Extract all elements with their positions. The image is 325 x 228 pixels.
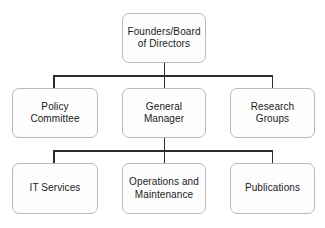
- connector-drop-operations: [164, 150, 166, 164]
- node-founders-board[interactable]: Founders/Board of Directors: [122, 13, 206, 63]
- node-publications[interactable]: Publications: [230, 163, 315, 214]
- connector-drop-research: [272, 75, 274, 89]
- node-operations-maintenance[interactable]: Operations and Maintenance: [122, 163, 206, 214]
- node-operations-maintenance-label: Operations and Maintenance: [126, 176, 202, 201]
- connector-drop-it-services: [53, 150, 55, 164]
- connector-drop-general-manager: [164, 75, 166, 89]
- node-publications-label: Publications: [242, 182, 303, 195]
- node-policy-committee-label: Policy Committee: [27, 101, 82, 126]
- node-it-services-label: IT Services: [27, 182, 84, 195]
- node-research-groups-label: Research Groups: [248, 101, 298, 126]
- node-policy-committee[interactable]: Policy Committee: [12, 88, 98, 138]
- node-research-groups[interactable]: Research Groups: [230, 88, 315, 138]
- node-general-manager-label: General Manager: [141, 101, 187, 126]
- org-chart-canvas: Founders/Board of Directors Policy Commi…: [0, 0, 325, 228]
- connector-drop-publications: [272, 150, 274, 164]
- connector-drop-policy: [53, 75, 55, 89]
- node-it-services[interactable]: IT Services: [12, 163, 98, 214]
- node-founders-board-label: Founders/Board of Directors: [124, 26, 203, 51]
- node-general-manager[interactable]: General Manager: [122, 88, 206, 138]
